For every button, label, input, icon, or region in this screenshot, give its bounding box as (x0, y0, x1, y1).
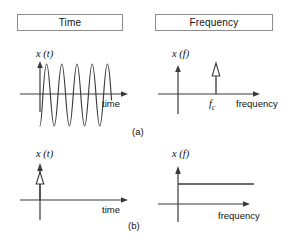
figure-canvas: Time Frequency x (t) time x (f) (0, 0, 296, 248)
row-label-b: (b) (128, 220, 140, 231)
x-axis-label-a-frequency: frequency (236, 98, 278, 109)
x-axis-arrowhead-b-time (121, 197, 128, 203)
plot-b-time (18, 148, 148, 230)
y-axis-arrowhead-a-frequency (175, 65, 181, 72)
x-axis-label-b-frequency: frequency (218, 210, 260, 221)
plot-a-time (18, 48, 148, 126)
impulse-arrowhead-a-frequency (212, 63, 220, 76)
row-label-a: (a) (132, 126, 144, 137)
panel-b-frequency: x (f) frequency (158, 148, 293, 230)
sinusoid-waveform-a-time (40, 64, 112, 126)
x-axis-label-a-time: time (102, 98, 120, 109)
y-axis-label-b-frequency: x (f) (172, 148, 189, 159)
plot-a-frequency (158, 48, 293, 126)
x-axis-label-b-time: time (102, 204, 120, 215)
column-header-frequency: Frequency (155, 14, 273, 31)
y-axis-arrowhead-b-frequency (175, 166, 181, 174)
panel-b-time: x (t) time (18, 148, 148, 230)
fc-subscript: c (212, 103, 215, 112)
panel-a-time: x (t) time (18, 48, 148, 126)
x-axis-arrowhead-b-frequency (243, 201, 250, 207)
panel-a-frequency: x (f) fc frequency (158, 48, 293, 126)
y-axis-label-a-time: x (t) (36, 48, 53, 59)
impulse-frequency-label-fc: fc (209, 98, 215, 112)
x-axis-arrowhead-a-time (121, 91, 128, 97)
y-axis-arrowhead-a-time (37, 61, 43, 68)
y-axis-arrowhead-b-time (37, 163, 43, 171)
y-axis-label-a-frequency: x (f) (172, 48, 189, 59)
column-header-time: Time (17, 14, 123, 31)
y-axis-label-b-time: x (t) (36, 148, 53, 159)
x-axis-arrowhead-a-frequency (253, 91, 260, 97)
impulse-arrowhead-b-time (36, 172, 44, 184)
